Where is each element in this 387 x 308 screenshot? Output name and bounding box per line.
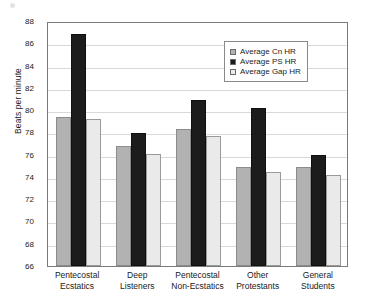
- x-axis-label-line: Ecstatics: [47, 281, 107, 292]
- legend-swatch-icon: [230, 59, 236, 65]
- x-axis-label-line: Pentecostal: [47, 270, 107, 281]
- x-axis-category-label: GeneralStudents: [288, 270, 348, 291]
- bar: [296, 167, 311, 266]
- legend-item: Average PS HR: [230, 57, 301, 66]
- y-axis-tick-label: 68: [10, 241, 34, 249]
- bar: [236, 167, 251, 266]
- bar: [86, 119, 101, 266]
- y-axis-tick-label: 72: [10, 196, 34, 204]
- legend-item-label: Average PS HR: [240, 58, 296, 66]
- bar: [206, 136, 221, 266]
- x-axis-category-label: PentecostalEcstatics: [47, 270, 107, 291]
- y-axis-title: Beats per minute: [13, 41, 23, 161]
- legend-swatch-icon: [230, 69, 236, 75]
- y-axis-tick-label: 86: [10, 40, 34, 48]
- legend-item: Average Cn HR: [230, 47, 301, 56]
- bar: [116, 146, 131, 266]
- y-axis-tick-label: 66: [10, 263, 34, 271]
- legend-item-label: Average Cn HR: [240, 48, 296, 56]
- y-axis-tick-label: 80: [10, 107, 34, 115]
- bar: [326, 175, 341, 266]
- bar-chart: Beats per minute 88868482807876747270686…: [0, 0, 387, 308]
- legend-swatch-icon: [230, 49, 236, 55]
- x-axis-label-line: Non-Ecstatics: [167, 281, 227, 292]
- x-axis-label-line: General: [288, 270, 348, 281]
- y-axis-tick-label: 78: [10, 129, 34, 137]
- bar: [131, 133, 146, 266]
- bar-group: [108, 23, 168, 266]
- x-axis-label-line: Listeners: [107, 281, 167, 292]
- y-axis-tick-label: 82: [10, 85, 34, 93]
- x-axis-label-line: Students: [288, 281, 348, 292]
- x-axis-label-line: Pentecostal: [167, 270, 227, 281]
- legend-item: Average Gap HR: [230, 67, 301, 76]
- bar: [71, 34, 86, 266]
- bar: [191, 100, 206, 266]
- bar: [251, 108, 266, 266]
- scan-artifact-speck: [10, 3, 15, 8]
- bar: [146, 154, 161, 266]
- x-axis-category-label: DeepListeners: [107, 270, 167, 291]
- bar-group: [168, 23, 228, 266]
- y-axis-tick-label: 84: [10, 63, 34, 71]
- x-axis-category-label: PentecostalNon-Ecstatics: [167, 270, 227, 291]
- y-axis-tick-label: 76: [10, 152, 34, 160]
- y-axis-tick-label: 88: [10, 18, 34, 26]
- x-axis-label-line: Protestants: [228, 281, 288, 292]
- legend-item-label: Average Gap HR: [240, 68, 301, 76]
- y-axis-tick-label: 70: [10, 218, 34, 226]
- chart-legend: Average Cn HRAverage PS HRAverage Gap HR: [224, 41, 308, 82]
- x-axis-label-line: Other: [228, 270, 288, 281]
- x-axis-category-label: OtherProtestants: [228, 270, 288, 291]
- bar-group: [48, 23, 108, 266]
- bar: [176, 129, 191, 266]
- bar: [56, 117, 71, 266]
- x-axis-label-line: Deep: [107, 270, 167, 281]
- bar: [311, 155, 326, 266]
- bar: [266, 172, 281, 266]
- y-axis-tick-label: 74: [10, 174, 34, 182]
